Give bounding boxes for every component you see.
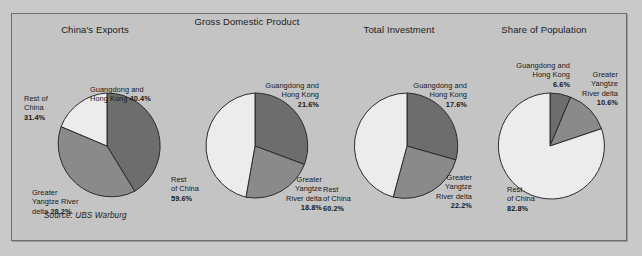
slice-label-guangdong-hk: Guangdong and Hong Kong 21.6%	[214, 72, 319, 109]
slice-label-value: 21.6%	[298, 100, 319, 109]
slice-label-rest-of-china: Rest of China 31.4%	[24, 85, 48, 122]
slice-label-value: 10.6%	[597, 98, 618, 107]
slice-label-yangtze-delta: Greater Yangtze River delta 22.2%	[390, 164, 472, 210]
slice-label-value: 31.4%	[24, 113, 45, 122]
figure-root: China's Exports Guangdong and Hong Kong …	[0, 0, 642, 256]
slice-label-name: Greater Yangtze River delta	[286, 175, 322, 202]
pie-chart-share-of-population: Share of Population Guangdong and Hong K…	[467, 14, 621, 242]
slice-label-name: Rest of China	[24, 94, 48, 112]
chart-title: Total Investment	[322, 24, 476, 36]
chart-title: Gross Domestic Product	[170, 16, 324, 28]
slice-label-name: Rest of China	[171, 175, 199, 193]
slice-label-guangdong-hk: Guangdong and Hong Kong 17.6%	[362, 72, 467, 109]
slice-label-guangdong-hk: Guangdong and Hong Kong 6.6%	[475, 52, 570, 89]
slice-label-name: Guangdong and Hong Kong	[265, 81, 319, 99]
slice-label-name: Guangdong and Hong Kong	[413, 81, 467, 99]
slice-label-rest-of-china: Rest of China 82.8%	[507, 176, 535, 213]
slice-label-rest-of-china: Rest of China 59.6%	[171, 166, 199, 203]
slice-label-name: Greater Yangtze River delta	[582, 70, 618, 97]
chart-title: Share of Population	[467, 24, 621, 36]
slice-label-value: 60.2%	[323, 204, 344, 213]
pie-chart-total-investment: Total Investment Guangdong and Hong Kong…	[322, 14, 476, 242]
slice-label-yangtze-delta: Greater Yangtze River delta 10.6%	[562, 61, 618, 107]
slice-label-value: 82.8%	[507, 204, 528, 213]
chart-title: China's Exports	[18, 24, 172, 36]
slice-label-value: 18.8%	[301, 203, 322, 212]
slice-label-value: 17.6%	[446, 100, 467, 109]
slice-label-name: Rest of China	[323, 185, 351, 203]
pie-chart-gross-domestic-product: Gross Domestic Product Guangdong and Hon…	[170, 14, 324, 242]
chart-panel: China's Exports Guangdong and Hong Kong …	[11, 13, 627, 241]
slice-label-value: 59.6%	[171, 194, 192, 203]
source-note: Source: UBS Warburg	[44, 211, 127, 220]
slice-label-yangtze-delta: Greater Yangtze River delta 18.8%	[240, 166, 322, 212]
pie-chart-chinas-exports: China's Exports Guangdong and Hong Kong …	[18, 14, 172, 242]
slice-label-guangdong-hk: Guangdong and Hong Kong 40.4%	[90, 76, 151, 104]
slice-label-rest-of-china: Rest of China 60.2%	[323, 176, 351, 213]
slice-label-value: 40.4%	[130, 94, 151, 103]
slice-label-name: Rest of China	[507, 185, 535, 203]
